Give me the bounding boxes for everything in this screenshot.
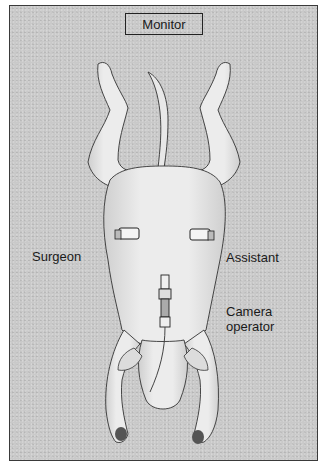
surgeon-trocar-icon — [115, 228, 139, 239]
surgeon-label: Surgeon — [32, 249, 81, 264]
tail — [148, 72, 168, 168]
monitor-box: Monitor — [125, 13, 203, 35]
camera-operator-line1: Camera — [226, 304, 296, 319]
right-front-leg — [184, 330, 218, 443]
assistant-trocar-icon — [190, 229, 214, 240]
assistant-label: Assistant — [226, 250, 279, 265]
left-front-paw — [115, 427, 127, 441]
animal-illustration — [0, 0, 327, 474]
right-front-paw — [192, 430, 204, 444]
monitor-label: Monitor — [142, 17, 185, 32]
camera-operator-line2: operator — [226, 319, 296, 334]
left-front-leg — [106, 330, 140, 443]
camera-operator-label: Camera operator — [226, 304, 296, 334]
